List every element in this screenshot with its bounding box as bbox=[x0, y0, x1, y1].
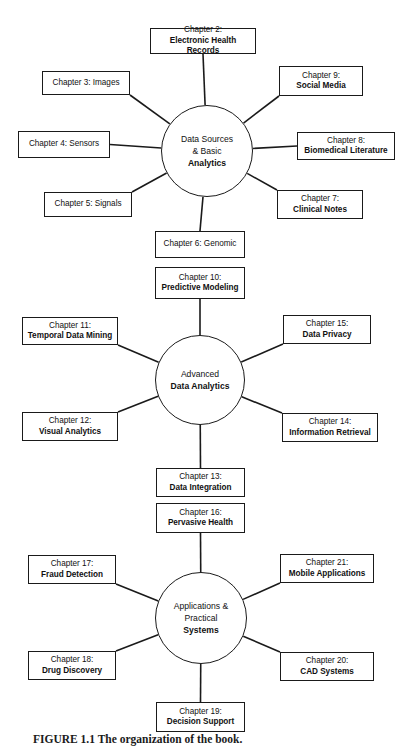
node-chapter-9[interactable]: Chapter 9:Social Media bbox=[279, 66, 363, 96]
edge-chapter-5 bbox=[132, 173, 167, 192]
node-chapter-8[interactable]: Chapter 8:Biomedical Literature bbox=[297, 132, 395, 160]
node-chapter-4-title: Chapter 4: Sensors bbox=[29, 139, 99, 150]
node-chapter-14[interactable]: Chapter 14:Information Retrieval bbox=[282, 413, 378, 442]
hub-advanced-analytics-line-0: Advanced bbox=[181, 368, 219, 380]
node-chapter-19-title: Chapter 19: bbox=[179, 707, 222, 718]
hub-data-sources-line-2: Analytics bbox=[188, 157, 226, 169]
node-chapter-4[interactable]: Chapter 4: Sensors bbox=[18, 131, 110, 158]
node-chapter-5-title: Chapter 5: Signals bbox=[55, 199, 122, 210]
node-chapter-12-title: Chapter 12: bbox=[49, 416, 92, 427]
node-chapter-10-subtitle: Predictive Modeling bbox=[162, 283, 239, 294]
hub-data-sources: Data Sources& BasicAnalytics bbox=[161, 105, 253, 197]
edge-chapter-14 bbox=[242, 397, 282, 413]
node-chapter-2-title: Chapter 2: bbox=[184, 25, 222, 36]
edge-chapter-4 bbox=[110, 145, 161, 148]
hub-applications-line-0: Applications & bbox=[174, 600, 228, 612]
node-chapter-7-subtitle: Clinical Notes bbox=[293, 205, 347, 216]
node-chapter-16-title: Chapter 16: bbox=[179, 508, 222, 519]
node-chapter-14-subtitle: Information Retrieval bbox=[289, 428, 370, 439]
node-chapter-15-subtitle: Data Privacy bbox=[303, 330, 352, 341]
node-chapter-8-title: Chapter 8: bbox=[327, 136, 365, 147]
figure-caption-text: FIGURE 1.1 The organization of the book. bbox=[33, 733, 242, 745]
edge-chapter-9 bbox=[244, 96, 279, 123]
node-chapter-21-subtitle: Mobile Applications bbox=[289, 569, 366, 580]
node-chapter-17-title: Chapter 17: bbox=[51, 559, 94, 570]
node-chapter-2[interactable]: Chapter 2:Electronic Health Records bbox=[150, 28, 256, 54]
figure-canvas: Data Sources& BasicAnalyticsAdvancedData… bbox=[0, 0, 407, 749]
node-chapter-9-subtitle: Social Media bbox=[296, 81, 345, 92]
node-chapter-2-subtitle: Electronic Health Records bbox=[153, 36, 253, 57]
edge-chapter-17 bbox=[116, 584, 158, 601]
node-chapter-12-subtitle: Visual Analytics bbox=[39, 427, 101, 438]
hub-applications-line-2: Systems bbox=[183, 624, 218, 636]
node-chapter-3-title: Chapter 3: Images bbox=[52, 78, 119, 89]
hub-advanced-analytics: AdvancedData Analytics bbox=[155, 335, 245, 425]
hub-applications: Applications &PracticalSystems bbox=[155, 572, 247, 664]
node-chapter-15-title: Chapter 15: bbox=[306, 319, 349, 330]
node-chapter-11[interactable]: Chapter 11:Temporal Data Mining bbox=[22, 317, 118, 345]
node-chapter-18-title: Chapter 18: bbox=[51, 655, 94, 666]
node-chapter-10-title: Chapter 10: bbox=[179, 273, 222, 284]
node-chapter-14-title: Chapter 14: bbox=[309, 417, 352, 428]
node-chapter-8-subtitle: Biomedical Literature bbox=[304, 146, 387, 157]
node-chapter-10[interactable]: Chapter 10:Predictive Modeling bbox=[155, 267, 245, 299]
node-chapter-13-title: Chapter 13: bbox=[179, 472, 222, 483]
node-chapter-15[interactable]: Chapter 15:Data Privacy bbox=[283, 315, 371, 344]
node-chapter-6-title: Chapter 6: Genomic bbox=[164, 239, 237, 250]
edge-chapter-11 bbox=[118, 345, 159, 362]
node-chapter-11-title: Chapter 11: bbox=[49, 321, 91, 332]
node-chapter-17-subtitle: Fraud Detection bbox=[41, 570, 103, 581]
figure-caption: FIGURE 1.1 The organization of the book. bbox=[0, 733, 407, 749]
node-chapter-18[interactable]: Chapter 18:Drug Discovery bbox=[28, 651, 116, 680]
node-chapter-7[interactable]: Chapter 7:Clinical Notes bbox=[277, 190, 363, 219]
hub-data-sources-line-1: & Basic bbox=[192, 145, 221, 157]
node-chapter-12[interactable]: Chapter 12:Visual Analytics bbox=[22, 412, 118, 441]
node-chapter-18-subtitle: Drug Discovery bbox=[42, 666, 102, 677]
node-chapter-3[interactable]: Chapter 3: Images bbox=[42, 71, 130, 95]
edge-chapter-8 bbox=[253, 146, 297, 148]
node-chapter-7-title: Chapter 7: bbox=[301, 194, 339, 205]
node-chapter-17[interactable]: Chapter 17:Fraud Detection bbox=[28, 555, 116, 584]
node-chapter-16[interactable]: Chapter 16:Pervasive Health bbox=[156, 503, 245, 533]
hub-advanced-analytics-line-1: Data Analytics bbox=[171, 380, 230, 392]
node-chapter-20[interactable]: Chapter 20:CAD Systems bbox=[280, 652, 374, 681]
edge-chapter-12 bbox=[118, 396, 158, 412]
node-chapter-21-title: Chapter 21: bbox=[306, 558, 349, 569]
node-chapter-13[interactable]: Chapter 13:Data Integration bbox=[156, 468, 245, 497]
node-chapter-20-title: Chapter 20: bbox=[306, 656, 349, 667]
node-chapter-13-subtitle: Data Integration bbox=[169, 483, 231, 494]
hub-data-sources-line-0: Data Sources bbox=[181, 133, 233, 145]
node-chapter-11-subtitle: Temporal Data Mining bbox=[28, 331, 113, 342]
node-chapter-9-title: Chapter 9: bbox=[302, 71, 340, 82]
node-chapter-19[interactable]: Chapter 19:Decision Support bbox=[156, 702, 245, 732]
node-chapter-20-subtitle: CAD Systems bbox=[300, 667, 353, 678]
edge-chapter-18 bbox=[116, 635, 158, 651]
edge-chapter-3 bbox=[130, 95, 170, 124]
edge-chapter-21 bbox=[243, 583, 280, 599]
edge-chapter-7 bbox=[247, 173, 277, 190]
node-chapter-5[interactable]: Chapter 5: Signals bbox=[44, 192, 132, 217]
hub-applications-line-1: Practical bbox=[185, 612, 218, 624]
node-chapter-21[interactable]: Chapter 21:Mobile Applications bbox=[280, 554, 374, 583]
edge-chapter-20 bbox=[243, 636, 280, 652]
node-chapter-6[interactable]: Chapter 6: Genomic bbox=[155, 231, 245, 258]
edge-chapter-6 bbox=[200, 197, 203, 231]
edge-chapter-2 bbox=[203, 54, 205, 105]
edge-chapter-15 bbox=[241, 344, 283, 362]
node-chapter-16-subtitle: Pervasive Health bbox=[168, 518, 233, 529]
node-chapter-19-subtitle: Decision Support bbox=[167, 717, 234, 728]
